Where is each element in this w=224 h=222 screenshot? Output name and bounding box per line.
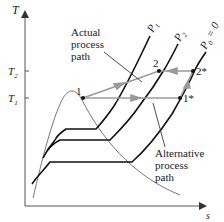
x-axis-label: s (206, 210, 210, 221)
svg-text:path: path (155, 171, 174, 183)
leader-actual (104, 52, 142, 82)
isobar-label-p2: P2 (171, 28, 190, 45)
arrow-head-1star-2star (184, 81, 190, 88)
annotation-actual: Actual process path (71, 26, 142, 82)
annotation-alternative: Alternative process path (153, 103, 205, 183)
point-label-1star: 1* (183, 92, 194, 104)
process-paths (83, 68, 193, 101)
isobar-p1 (55, 36, 150, 140)
isobar-label-p1: P1 (144, 19, 163, 36)
arrow-head-1-1star (131, 95, 140, 101)
t-s-diagram: T s T2 T1 1 2 2* 1* P1 P2 P0 = 0 Actual (0, 0, 224, 222)
svg-text:process: process (155, 159, 188, 171)
leader-alternative (153, 103, 165, 147)
liquid-line-lower (43, 140, 55, 158)
point-1 (81, 96, 85, 100)
arrow-head-2star-2 (168, 68, 177, 74)
tick-label-t1: T1 (8, 92, 18, 107)
svg-text:process: process (71, 38, 104, 50)
isobar-label-p0: P0 = 0 (197, 20, 224, 54)
arrow-head-actual (114, 83, 124, 89)
point-2star (191, 69, 195, 73)
point-label-2: 2 (153, 57, 159, 69)
point-1star (178, 96, 182, 100)
point-label-1: 1 (76, 85, 82, 97)
tick-label-t2: T2 (8, 65, 18, 80)
svg-text:Alternative: Alternative (155, 147, 205, 159)
svg-text:Actual: Actual (71, 26, 100, 38)
point-2 (157, 69, 161, 73)
point-label-2star: 2* (196, 65, 207, 77)
svg-text:path: path (71, 50, 90, 62)
y-axis-label: T (12, 3, 20, 17)
